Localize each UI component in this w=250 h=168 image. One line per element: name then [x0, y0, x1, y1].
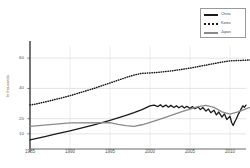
y-tick-label: 40: [10, 86, 24, 90]
legend-item-japan[interactable]: Japan: [204, 29, 243, 37]
chart-figure: 10 20 40 60 1985 1990 1995 2000 2005 201…: [0, 0, 250, 168]
legend-line-swatch-japan: [204, 32, 218, 34]
y-axis-title: In thousands: [6, 64, 10, 108]
legend-label-korea: Korea: [221, 22, 231, 26]
x-tick-label: 2000: [145, 150, 155, 155]
legend-label-china: China: [221, 13, 230, 17]
x-tick-label: 1990: [65, 150, 75, 155]
legend-item-korea[interactable]: Korea: [204, 20, 243, 28]
y-tick-label: 20: [10, 117, 24, 121]
x-tick-label: 1985: [25, 150, 35, 155]
legend-label-japan: Japan: [221, 31, 231, 35]
legend-item-china[interactable]: China: [204, 11, 243, 19]
x-tick-label: 1995: [105, 150, 115, 155]
y-tick-label: 60: [10, 56, 24, 60]
legend-line-swatch-china: [204, 14, 218, 16]
x-tick-label: 2005: [185, 150, 195, 155]
legend-line-swatch-korea: [204, 23, 218, 25]
series-layer: [30, 57, 250, 140]
chart-legend: China Korea Japan: [200, 8, 246, 38]
x-axis-tick-labels: 1985 1990 1995 2000 2005 2010: [0, 150, 250, 160]
x-tick-label: 2010: [225, 150, 235, 155]
y-tick-label: 10: [10, 132, 24, 136]
